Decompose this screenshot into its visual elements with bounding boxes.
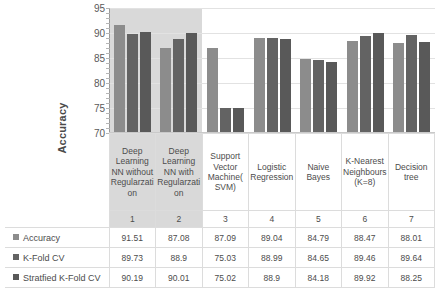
y-tick-label: 75 — [94, 103, 105, 114]
bar — [267, 38, 278, 133]
bar-group — [202, 8, 249, 133]
table-cell-value: 88.9 — [156, 248, 203, 268]
table-cell-index: 6 — [342, 211, 389, 228]
table-cell-index: 7 — [388, 211, 435, 228]
table-cell-value: 88.99 — [249, 248, 296, 268]
table-cell-value: 75.03 — [202, 248, 249, 268]
table-cell-value: 84.65 — [295, 248, 342, 268]
table-cell-value: 89.04 — [249, 228, 296, 248]
table-cell-value: 88.01 — [388, 228, 435, 248]
bar — [393, 43, 404, 133]
bar — [114, 25, 125, 133]
table-cell-value: 89.64 — [388, 248, 435, 268]
legend-label: Accuracy — [23, 233, 60, 243]
bar — [140, 32, 151, 133]
bar-group — [295, 8, 342, 133]
table-row: Accuracy91.5187.0887.0989.0484.7988.4788… — [5, 228, 435, 248]
data-table: Deep Learning NN without RegularzationDe… — [5, 133, 435, 288]
bar — [419, 42, 430, 133]
bar — [233, 108, 244, 133]
table-cell-value: 75.02 — [202, 268, 249, 288]
table-cell-value: 90.01 — [156, 268, 203, 288]
bar — [127, 34, 138, 133]
table-cell-value: 87.09 — [202, 228, 249, 248]
table-cell-category: K-Nearest Neighbours (K=8) — [342, 134, 389, 211]
y-tick-label: 85 — [94, 53, 105, 64]
table-cell-category: Support Vector Machine( SVM) — [202, 134, 249, 211]
bar — [207, 48, 218, 133]
table-cell-index: 2 — [156, 211, 203, 228]
table-row: Stratfied K-Fold CV90.1990.0175.0288.984… — [5, 268, 435, 288]
bar-group — [249, 8, 296, 133]
bar — [173, 39, 184, 134]
bar — [373, 33, 384, 133]
y-tick-label: 90 — [94, 28, 105, 39]
table-cell-category: Naive Bayes — [295, 134, 342, 211]
table-cell-value: 89.92 — [342, 268, 389, 288]
plot-area-wrapper: 707580859095 — [83, 8, 435, 136]
y-tick-label: 80 — [94, 78, 105, 89]
legend-item: Accuracy — [5, 228, 109, 248]
table-cell-category: Deep Learning NN without Regularzation — [109, 134, 156, 211]
legend-label: K-Fold CV — [23, 253, 65, 263]
table-row-categories: Deep Learning NN without RegularzationDe… — [5, 134, 435, 211]
bar-group — [156, 8, 203, 133]
bar-groups — [109, 8, 435, 133]
bar-group — [109, 8, 156, 133]
bar — [254, 38, 265, 133]
plot-area — [109, 8, 435, 133]
bar — [220, 108, 231, 133]
bar — [347, 41, 358, 133]
table-cell-value: 88.25 — [388, 268, 435, 288]
bar — [326, 62, 337, 133]
table-cell-category: Logistic Regression — [249, 134, 296, 211]
table-cell-index: 3 — [202, 211, 249, 228]
bar — [313, 60, 324, 133]
table-cell-index: 4 — [249, 211, 296, 228]
table-row: K-Fold CV89.7388.975.0388.9984.6589.4689… — [5, 248, 435, 268]
bar — [186, 33, 197, 133]
table-cell-category: Deep Learning NN with Regularzation — [156, 134, 203, 211]
bar — [360, 36, 371, 133]
legend-label: Stratfied K-Fold CV — [23, 273, 101, 283]
bar — [406, 35, 417, 133]
table-cell-value: 84.79 — [295, 228, 342, 248]
table-cell-value: 88.47 — [342, 228, 389, 248]
table-cell-value: 87.08 — [156, 228, 203, 248]
bar — [280, 39, 291, 134]
chart-figure: Accuracy 707580859095 Deep Learning NN w… — [0, 0, 440, 300]
legend-item: K-Fold CV — [5, 248, 109, 268]
table-cell-index: 5 — [295, 211, 342, 228]
legend-swatch-icon — [13, 254, 19, 260]
table-cell-index: 1 — [109, 211, 156, 228]
bar — [160, 48, 171, 133]
y-axis-tick-labels: 707580859095 — [83, 8, 105, 136]
table-cell-value: 89.73 — [109, 248, 156, 268]
table-row-indices: 1234567 — [5, 211, 435, 228]
legend-item: Stratfied K-Fold CV — [5, 268, 109, 288]
table-cell-value: 91.51 — [109, 228, 156, 248]
bar-group — [388, 8, 435, 133]
bar — [300, 59, 311, 133]
legend-swatch-icon — [13, 234, 19, 240]
table-cell-value: 90.19 — [109, 268, 156, 288]
table-cell-value: 89.46 — [342, 248, 389, 268]
table-cell-value: 84.18 — [295, 268, 342, 288]
legend-swatch-icon — [13, 274, 19, 280]
table-cell-category: Decision tree — [388, 134, 435, 211]
table-cell-value: 88.9 — [249, 268, 296, 288]
bar-group — [342, 8, 389, 133]
y-tick-label: 95 — [94, 3, 105, 14]
